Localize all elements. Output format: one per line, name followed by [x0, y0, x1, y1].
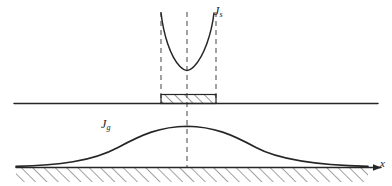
label-surface-current: Js: [214, 5, 223, 19]
contact-block-group: [161, 95, 216, 104]
dashed-guides: [161, 12, 216, 167]
label-jg-subscript: g: [106, 123, 110, 132]
ground-group: [16, 168, 381, 183]
figure-container: Js Jg x: [0, 0, 392, 186]
label-axis-x: x: [380, 158, 385, 169]
contact-block-fill: [161, 95, 216, 104]
jg-gaussian-path: [16, 126, 368, 166]
label-x-base: x: [380, 157, 385, 169]
curve-jg: [16, 126, 368, 166]
label-ground-current: Jg: [101, 118, 111, 132]
diagram-canvas: [0, 0, 392, 186]
ground-hatch-band: [16, 168, 368, 182]
label-js-subscript: s: [219, 10, 222, 19]
